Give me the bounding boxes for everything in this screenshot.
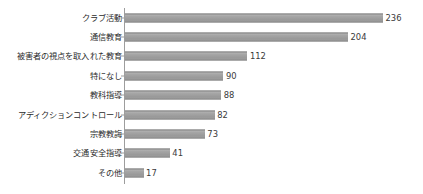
axis-tick xyxy=(121,75,124,76)
axis-tick xyxy=(121,17,124,18)
bar-value-label: 90 xyxy=(226,71,237,80)
bar-rows: クラブ活動 236 通信教育 204 被害者の視点を取入れた教育 xyxy=(0,8,423,183)
bar-group: 73 xyxy=(125,130,218,139)
axis-tick xyxy=(121,134,124,135)
category-label: 教科指導 xyxy=(90,90,122,100)
bar-row: 交通安全指導 41 xyxy=(0,144,423,163)
bar-row: アディクションコントロール 82 xyxy=(0,105,423,124)
axis-tick xyxy=(121,95,124,96)
bar xyxy=(125,71,223,80)
bar-value-label: 41 xyxy=(172,149,183,158)
bar-value-label: 88 xyxy=(224,91,235,100)
bar xyxy=(125,149,170,158)
bar-row: 通信教育 204 xyxy=(0,27,423,46)
bar-value-label: 236 xyxy=(386,13,402,22)
category-label: アディクションコントロール xyxy=(18,110,122,120)
category-label: クラブ活動 xyxy=(82,13,123,23)
bar-row: 被害者の視点を取入れた教育 112 xyxy=(0,47,423,66)
bar-value-label: 82 xyxy=(217,110,228,119)
bar-value-label: 112 xyxy=(250,52,266,61)
bar-value-label: 17 xyxy=(146,168,157,177)
bar-group: 82 xyxy=(125,110,228,119)
category-label: 通信教育 xyxy=(90,32,122,42)
bar-chart: クラブ活動 236 通信教育 204 被害者の視点を取入れた教育 xyxy=(0,0,423,194)
bar-group: 88 xyxy=(125,91,234,100)
category-label: その他 xyxy=(98,168,122,178)
axis-tick xyxy=(121,153,124,154)
bar-group: 236 xyxy=(125,13,402,22)
bar-group: 204 xyxy=(125,33,367,42)
bar-group: 17 xyxy=(125,168,157,177)
axis-tick xyxy=(121,114,124,115)
bar-row: 宗教教誨 73 xyxy=(0,124,423,143)
bar-row: 特になし 90 xyxy=(0,66,423,85)
category-label: 特になし xyxy=(90,71,122,81)
bar-row: その他 17 xyxy=(0,163,423,182)
bar-group: 41 xyxy=(125,149,183,158)
bar xyxy=(125,110,215,119)
bar-row: 教科指導 88 xyxy=(0,86,423,105)
category-label: 被害者の視点を取入れた教育 xyxy=(17,51,122,61)
bar-group: 90 xyxy=(125,71,237,80)
bar-value-label: 73 xyxy=(207,130,218,139)
bar xyxy=(125,130,205,139)
bar-group: 112 xyxy=(125,52,266,61)
bar-row: クラブ活動 236 xyxy=(0,8,423,27)
axis-tick xyxy=(121,172,124,173)
bar xyxy=(125,13,383,22)
bar xyxy=(125,168,144,177)
bar xyxy=(125,91,221,100)
category-label: 宗教教誨 xyxy=(90,129,122,139)
plot-area: クラブ活動 236 通信教育 204 被害者の視点を取入れた教育 xyxy=(0,0,423,194)
axis-tick xyxy=(121,56,124,57)
bar-value-label: 204 xyxy=(351,33,367,42)
bar xyxy=(125,33,348,42)
category-label: 交通安全指導 xyxy=(73,148,122,158)
bar xyxy=(125,52,247,61)
axis-tick xyxy=(121,37,124,38)
